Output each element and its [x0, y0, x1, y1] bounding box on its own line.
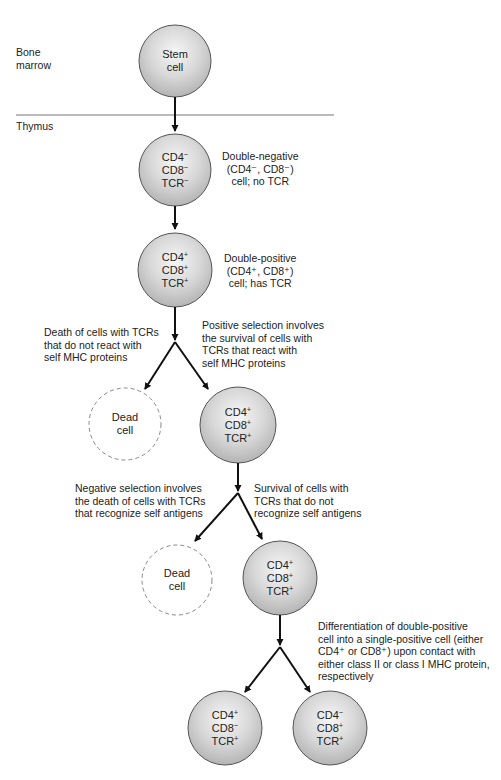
annotation-line: Negative selection involves — [75, 482, 206, 495]
negative-selected-cell-label: CD4+ CD8+ TCR+ — [267, 559, 294, 598]
arrow-branch3-to-cd8 — [280, 647, 310, 692]
cell-line: TCR+ — [267, 585, 294, 598]
cd4-single-positive-cell-label: CD4+ CD8− TCR+ — [212, 709, 239, 748]
annotation-line: respectively — [318, 670, 490, 683]
dead-cell-1-label: Dead cell — [112, 411, 138, 437]
cell-line: TCR+ — [162, 277, 189, 290]
annotation-line: cell; no TCR — [222, 175, 298, 188]
annotation-line: that do not react with — [44, 339, 159, 352]
annotation-line: recognize self antigens — [254, 507, 361, 520]
annotation-line: (CD4⁺, CD8⁺) — [224, 265, 296, 278]
annotation-line: self MHC proteins — [202, 357, 324, 370]
double-positive-cell-label: CD4+ CD8+ TCR+ — [162, 251, 189, 290]
annotation-line: the survival of cells with — [202, 332, 324, 345]
annotation-line: Double-positive — [224, 252, 296, 265]
annotation-line: Positive selection involves — [202, 319, 324, 332]
cell-line: TCR+ — [225, 432, 252, 445]
cell-line: TCR+ — [317, 735, 344, 748]
annotation-double-negative: Double-negative (CD4⁻, CD8⁻) cell; no TC… — [222, 150, 298, 188]
double-negative-cell-label: CD4− CD8− TCR− — [162, 151, 189, 190]
annotation-line: the death of cells with TCRs — [75, 495, 206, 508]
annotation-positive-selection: Positive selection involves the survival… — [202, 319, 324, 369]
annotation-line: either class II or class I MHC protein, — [318, 658, 490, 671]
annotation-double-positive: Double-positive (CD4⁺, CD8⁺) cell; has T… — [224, 252, 296, 290]
cell-line: cell — [162, 61, 188, 74]
cell-line: cell — [164, 580, 190, 593]
cell-line: Dead — [164, 567, 190, 580]
positive-selected-cell-label: CD4+ CD8+ TCR+ — [225, 406, 252, 445]
annotation-line: self MHC proteins — [44, 351, 159, 364]
cell-line: Stem — [162, 48, 188, 61]
annotation-line: Death of cells with TCRs — [44, 326, 159, 339]
annotation-line: that recognize self antigens — [75, 507, 206, 520]
annotation-survival-no-self: Survival of cells with TCRs that do not … — [254, 482, 361, 520]
annotation-line: TCRs that do not — [254, 495, 361, 508]
arrow-branch3-to-cd4 — [245, 647, 280, 692]
annotation-line: Double-negative — [222, 150, 298, 163]
annotation-line: CD4⁺ or CD8⁺) upon contact with — [318, 645, 490, 658]
annotation-differentiation: Differentiation of double-positive cell … — [318, 620, 490, 683]
annotation-line: Survival of cells with — [254, 482, 361, 495]
annotation-line: cell into a single-positive cell (either — [318, 633, 490, 646]
annotation-line: cell; has TCR — [224, 277, 296, 290]
cell-line: TCR− — [162, 177, 189, 190]
annotation-negative-selection: Negative selection involves the death of… — [75, 482, 206, 520]
annotation-line: (CD4⁻, CD8⁻) — [222, 163, 298, 176]
annotation-line: TCRs that react with — [202, 344, 324, 357]
annotation-line: Differentiation of double-positive — [318, 620, 490, 633]
cell-line: Dead — [112, 411, 138, 424]
cell-line: TCR+ — [212, 735, 239, 748]
region-label-thymus: Thymus — [16, 120, 53, 133]
cd8-single-positive-cell-label: CD4− CD8+ TCR+ — [317, 709, 344, 748]
annotation-death-no-mhc: Death of cells with TCRs that do not rea… — [44, 326, 159, 364]
cell-line: cell — [112, 424, 138, 437]
region-label-bone-marrow: Bone marrow — [16, 46, 51, 71]
stem-cell-label: Stem cell — [162, 48, 188, 74]
dead-cell-2-label: Dead cell — [164, 567, 190, 593]
